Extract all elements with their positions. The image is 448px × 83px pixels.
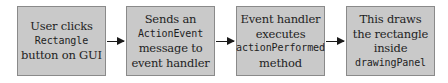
arrow-right-icon	[216, 41, 234, 42]
step-1-line-2-code: Rectangle	[35, 34, 88, 49]
step-4-line-4-code: drawingPanel	[355, 56, 426, 71]
step-3-line-3-code: actionPerformed	[236, 41, 325, 56]
step-3-line-4: method	[259, 56, 302, 71]
step-2-line-4: event handler	[131, 56, 209, 71]
arrow-right-icon	[326, 41, 344, 42]
step-3-line-1: Event handler	[241, 12, 321, 27]
step-handler-executes-box: Event handler executes actionPerformed m…	[236, 6, 325, 76]
step-user-clicks-box: User clicks Rectangle button on GUI	[17, 6, 106, 76]
step-3-line-2: executes	[256, 27, 306, 42]
event-flow-diagram: User clicks Rectangle button on GUI Send…	[0, 0, 448, 83]
step-4-line-1: This draws	[360, 12, 422, 27]
step-2-line-1: Sends an	[145, 12, 197, 27]
step-1-line-1: User clicks	[30, 19, 92, 34]
step-sends-action-event-box: Sends an ActionEvent message to event ha…	[126, 6, 215, 76]
step-2-line-3: message to	[139, 41, 203, 56]
step-4-line-3: inside	[374, 41, 408, 56]
step-4-line-2: the rectangle	[353, 27, 428, 42]
arrow-right-icon	[107, 41, 124, 42]
step-1-line-3: button on GUI	[21, 48, 102, 63]
step-2-line-2-code: ActionEvent	[138, 27, 203, 42]
step-draws-rectangle-box: This draws the rectangle inside drawingP…	[346, 6, 435, 76]
